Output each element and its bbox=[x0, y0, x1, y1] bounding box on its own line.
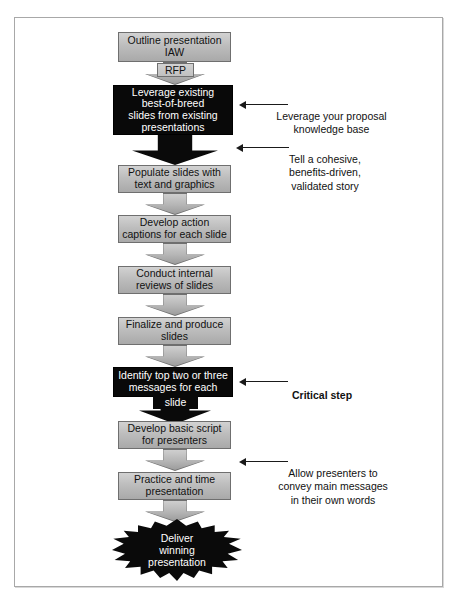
process-box-messages: Identify top two or three messages for e… bbox=[113, 367, 233, 397]
callout-critical-step: Critical step bbox=[292, 375, 402, 402]
process-box-populate: Populate slides with text and graphics bbox=[118, 165, 231, 193]
callout-leader-critical-step bbox=[246, 381, 288, 382]
callout-cohesive-story: Tell a cohesive, benefits-driven, valida… bbox=[260, 139, 390, 194]
process-box-outline: Outline presentation IAW bbox=[118, 32, 231, 62]
process-box-reviews-label: Conduct internal reviews of slides bbox=[119, 268, 230, 292]
callout-arrowhead-knowledge-base bbox=[239, 101, 246, 109]
callout-own-words-text: Allow presenters to convey main messages… bbox=[278, 467, 388, 506]
callout-arrowhead-critical-step bbox=[239, 378, 246, 386]
process-box-leverage-label: Leverage existing best-of-breed slides f… bbox=[114, 87, 232, 134]
callout-cohesive-story-text: Tell a cohesive, benefits-driven, valida… bbox=[289, 153, 361, 192]
callout-own-words: Allow presenters to convey main messages… bbox=[253, 453, 413, 508]
process-box-script: Develop basic script for presenters bbox=[118, 421, 231, 449]
process-box-practice-label: Practice and time presentation bbox=[119, 474, 230, 498]
callout-arrowhead-own-words bbox=[239, 458, 246, 466]
arrow-label-rfp-text: RFP bbox=[165, 64, 186, 76]
callout-critical-step-text: Critical step bbox=[292, 389, 352, 401]
arrow-label-rfp: RFP bbox=[157, 63, 194, 77]
callout-knowledge-base: Leverage your proposal knowledge base bbox=[254, 96, 409, 137]
process-box-finalize-label: Finalize and produce slides bbox=[119, 319, 230, 343]
flowchart-canvas: Outline presentation IAW RFP Leverage ex… bbox=[0, 0, 460, 599]
process-box-leverage: Leverage existing best-of-breed slides f… bbox=[113, 85, 233, 135]
process-box-populate-label: Populate slides with text and graphics bbox=[119, 167, 230, 191]
callout-arrowhead-cohesive-story bbox=[236, 144, 243, 152]
callout-knowledge-base-text: Leverage your proposal knowledge base bbox=[276, 110, 386, 136]
terminal-starburst-label: Deliver winning presentation bbox=[132, 532, 223, 568]
arrow-label-slide-text: slide bbox=[165, 396, 187, 408]
process-box-reviews: Conduct internal reviews of slides bbox=[118, 266, 231, 294]
process-box-practice: Practice and time presentation bbox=[118, 472, 231, 500]
process-box-captions-label: Develop action captions for each slide bbox=[119, 217, 230, 241]
process-box-finalize: Finalize and produce slides bbox=[118, 317, 231, 345]
arrow-label-slide: slide bbox=[153, 396, 198, 409]
process-box-messages-label: Identify top two or three messages for e… bbox=[114, 370, 232, 394]
process-box-captions: Develop action captions for each slide bbox=[118, 215, 231, 243]
process-box-script-label: Develop basic script for presenters bbox=[119, 423, 230, 447]
process-box-outline-label: Outline presentation IAW bbox=[119, 35, 230, 59]
